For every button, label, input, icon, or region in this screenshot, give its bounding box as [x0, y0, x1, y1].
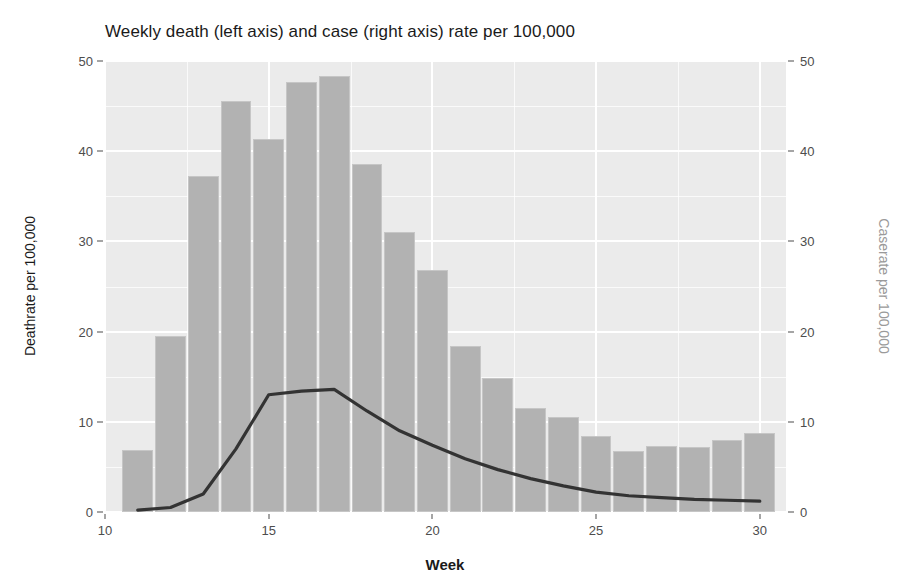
line-series	[105, 61, 786, 512]
x-tick-mark	[759, 514, 760, 519]
x-tick-mark	[105, 514, 106, 519]
y-axis-title-left: Deathrate per 100,000	[22, 216, 38, 356]
y-tick-label-right: 0	[800, 505, 807, 520]
y-tick-label-right: 50	[800, 54, 814, 69]
y-tick-mark-left	[97, 331, 103, 332]
chart-figure: Weekly death (left axis) and case (right…	[0, 0, 915, 586]
y-tick-label-left: 40	[65, 144, 93, 159]
x-tick-label: 20	[425, 523, 439, 538]
x-tick-label: 30	[753, 523, 767, 538]
y-tick-label-left: 10	[65, 414, 93, 429]
y-tick-label-right: 40	[800, 144, 814, 159]
y-tick-label-left: 30	[65, 234, 93, 249]
y-tick-mark-right	[788, 512, 794, 513]
y-tick-label-left: 20	[65, 324, 93, 339]
x-axis-title: Week	[426, 556, 465, 573]
x-tick-label: 25	[589, 523, 603, 538]
chart-title: Weekly death (left axis) and case (right…	[105, 22, 575, 42]
plot-panel	[105, 61, 786, 512]
x-tick-mark	[268, 514, 269, 519]
y-tick-mark-left	[97, 512, 103, 513]
y-tick-label-right: 20	[800, 324, 814, 339]
y-tick-label-left: 0	[65, 505, 93, 520]
y-tick-mark-left	[97, 241, 103, 242]
y-tick-label-left: 50	[65, 54, 93, 69]
y-tick-label-right: 30	[800, 234, 814, 249]
x-tick-label: 10	[98, 523, 112, 538]
y-tick-mark-left	[97, 421, 103, 422]
y-tick-mark-right	[788, 151, 794, 152]
y-tick-mark-right	[788, 61, 794, 62]
y-axis-title-right: Caserate per 100,000	[876, 218, 892, 353]
y-tick-mark-right	[788, 241, 794, 242]
y-tick-mark-right	[788, 331, 794, 332]
caserate-line	[138, 389, 760, 510]
x-tick-mark	[596, 514, 597, 519]
x-tick-mark	[432, 514, 433, 519]
x-tick-label: 15	[261, 523, 275, 538]
y-tick-mark-left	[97, 61, 103, 62]
y-tick-label-right: 10	[800, 414, 814, 429]
y-tick-mark-right	[788, 421, 794, 422]
y-tick-mark-left	[97, 151, 103, 152]
